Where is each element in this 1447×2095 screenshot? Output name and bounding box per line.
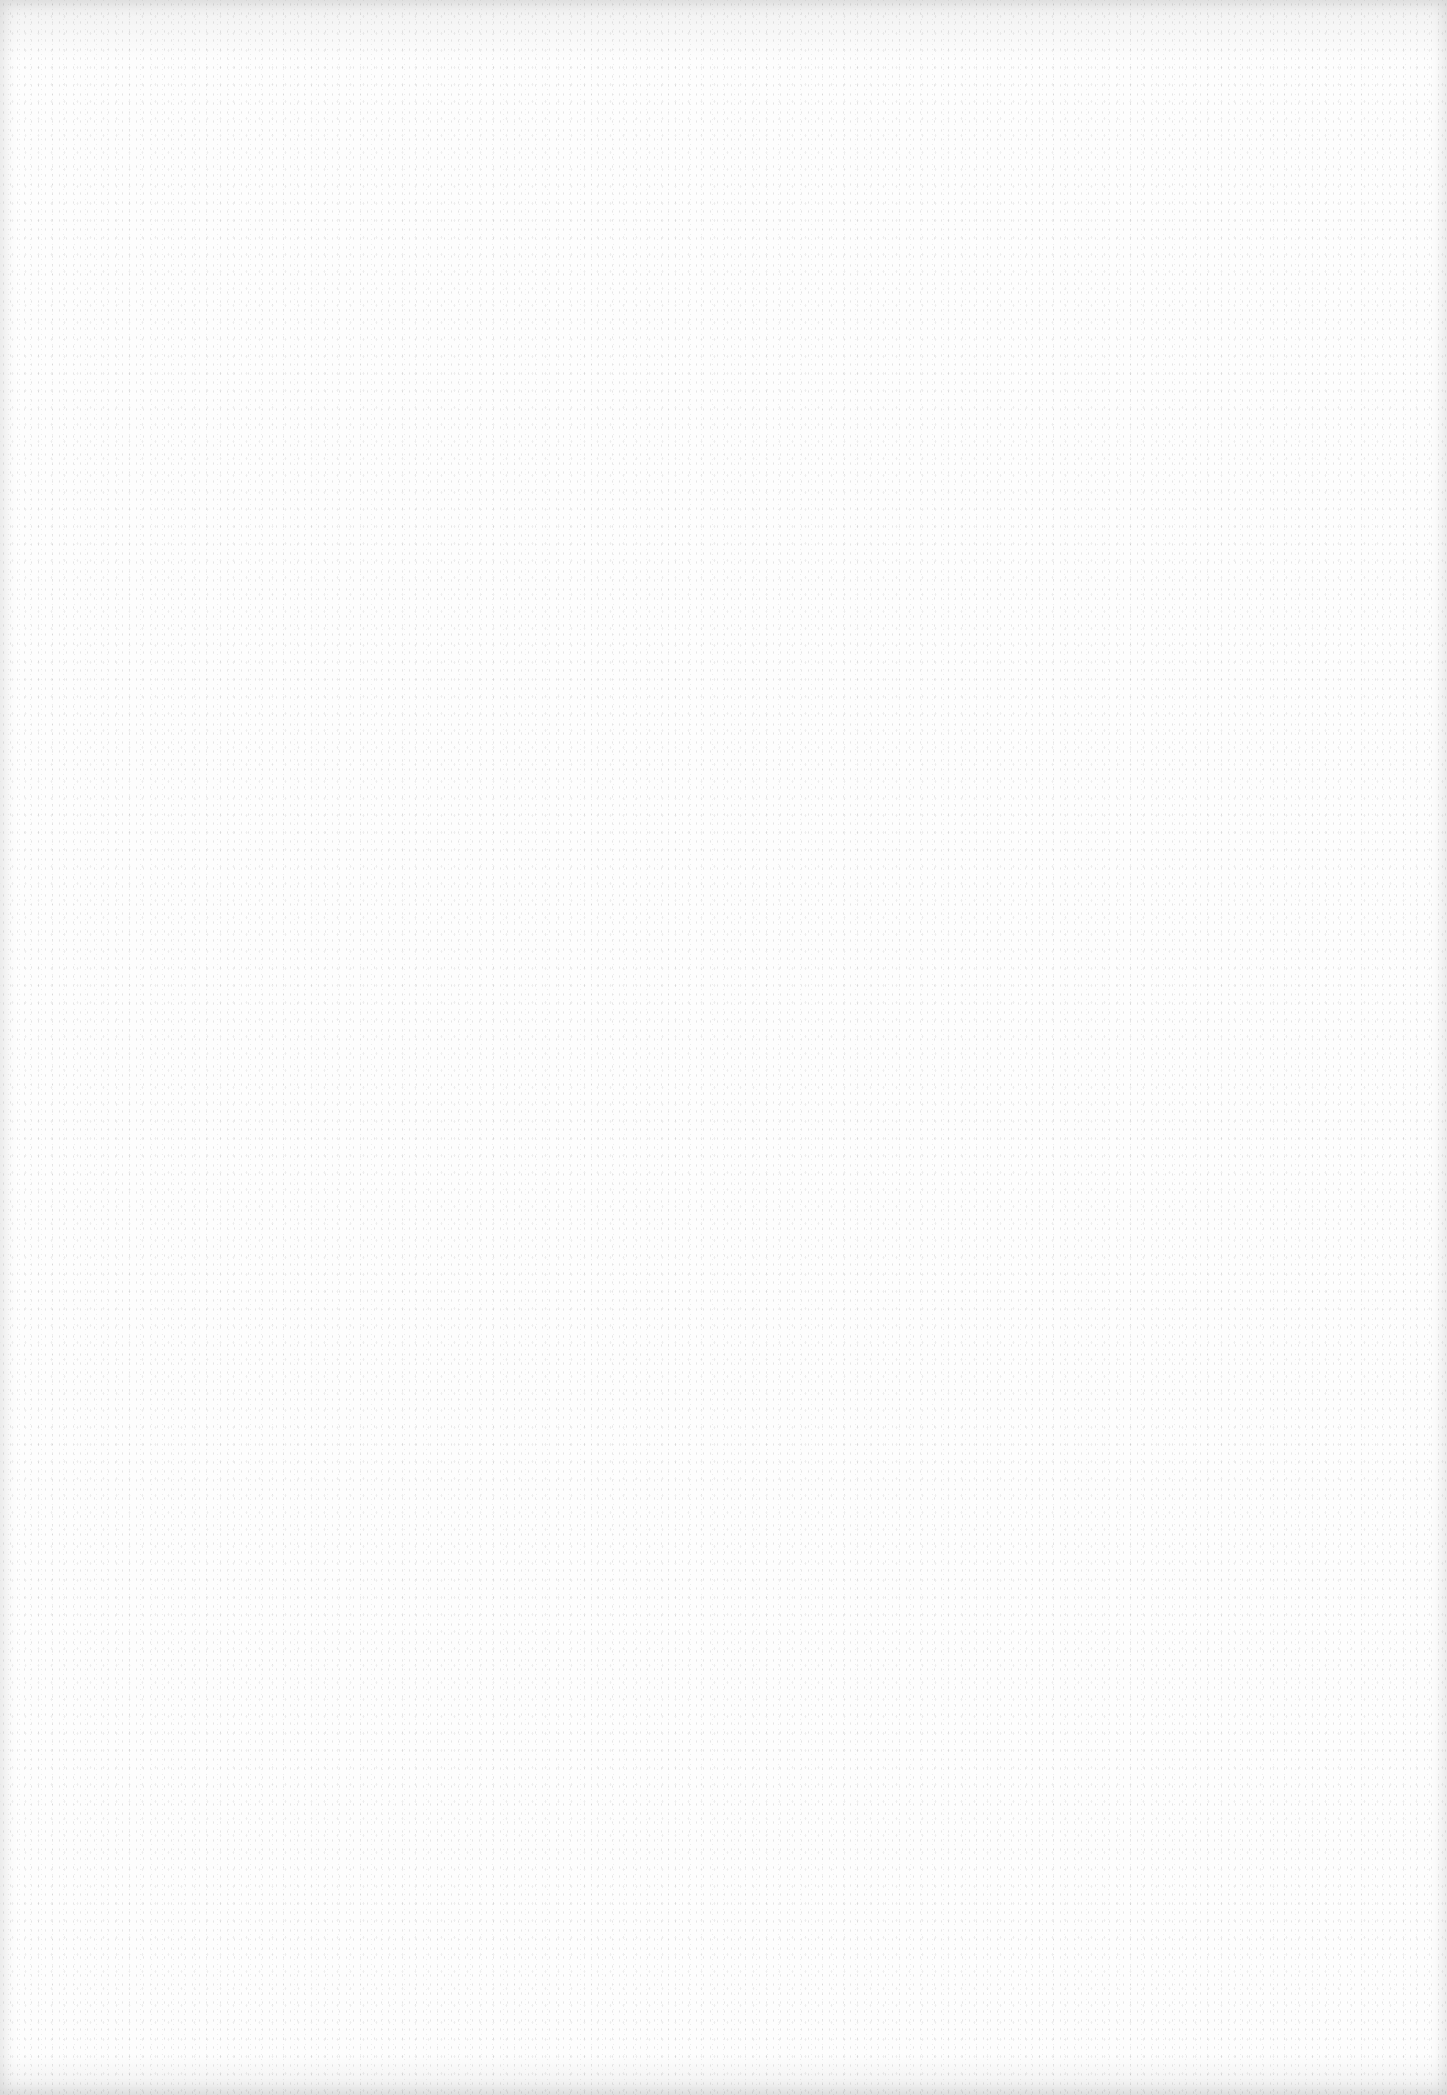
page-edge-shadow-bottom [0, 2055, 1447, 2095]
page-content-area [0, 0, 1447, 2095]
blank-page [0, 0, 1447, 2095]
